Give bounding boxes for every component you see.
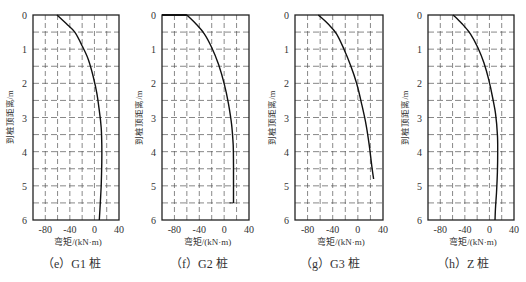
x-tick-label: -80 <box>168 224 181 235</box>
y-tick-label: 5 <box>284 181 289 192</box>
chart-panel-g2: 0123456-80-40040弯矩/(kN·m)到桩顶距离/m <box>134 10 254 247</box>
x-tick-label: 40 <box>244 224 254 235</box>
y-tick-label: 3 <box>22 113 27 124</box>
caption-g1: （e）G1 桩 <box>42 254 101 272</box>
y-axis-label: 到桩顶距离/m <box>400 90 410 144</box>
x-axis-label: 弯矩/(kN·m) <box>317 236 365 247</box>
x-tick-label: 0 <box>92 224 97 235</box>
y-tick-label: 6 <box>22 215 27 226</box>
y-tick-label: 1 <box>284 44 289 55</box>
moment-curve-g3 <box>318 15 373 179</box>
chart-figure: 0123456-80-40040弯矩/(kN·m)到桩顶距离/m0123456-… <box>0 0 526 282</box>
caption-g2: （f）G2 桩 <box>170 254 228 272</box>
y-tick-label: 3 <box>151 113 156 124</box>
x-tick-label: -40 <box>193 224 206 235</box>
x-axis-label: 弯矩/(kN·m) <box>54 236 102 247</box>
chart-panel-g3: 0123456-80-40040弯矩/(kN·m)到桩顶距离/m <box>267 10 388 247</box>
chart-panel-g1: 0123456-80-40040弯矩/(kN·m)到桩顶距离/m <box>5 10 124 247</box>
x-tick-label: 40 <box>114 224 124 235</box>
y-tick-label: 4 <box>417 147 422 158</box>
y-tick-label: 3 <box>284 113 289 124</box>
y-tick-label: 2 <box>151 78 156 89</box>
y-tick-label: 0 <box>22 10 27 21</box>
x-tick-label: -40 <box>326 224 339 235</box>
x-tick-label: 0 <box>222 224 227 235</box>
y-axis-label: 到桩顶距离/m <box>5 90 15 144</box>
y-axis-label: 到桩顶距离/m <box>267 90 277 144</box>
x-tick-label: 40 <box>509 224 519 235</box>
y-tick-label: 6 <box>151 215 156 226</box>
y-tick-label: 6 <box>284 215 289 226</box>
x-tick-label: 40 <box>378 224 388 235</box>
x-tick-label: -80 <box>39 224 52 235</box>
y-tick-label: 4 <box>151 147 156 158</box>
y-tick-label: 2 <box>284 78 289 89</box>
y-tick-label: 2 <box>417 78 422 89</box>
x-tick-label: 0 <box>487 224 492 235</box>
x-tick-label: 0 <box>355 224 360 235</box>
y-tick-label: 5 <box>151 181 156 192</box>
y-tick-label: 1 <box>151 44 156 55</box>
caption-g3: （g）G3 桩 <box>300 254 360 272</box>
y-tick-label: 1 <box>22 44 27 55</box>
y-axis-label: 到桩顶距离/m <box>134 90 144 144</box>
y-tick-label: 4 <box>284 147 289 158</box>
y-tick-label: 6 <box>417 215 422 226</box>
y-tick-label: 1 <box>417 44 422 55</box>
y-tick-label: 0 <box>151 10 156 21</box>
y-tick-label: 5 <box>22 181 27 192</box>
y-tick-label: 0 <box>284 10 289 21</box>
x-tick-label: -80 <box>434 224 447 235</box>
y-tick-label: 2 <box>22 78 27 89</box>
moment-curve-g2 <box>187 15 234 203</box>
y-tick-label: 5 <box>417 181 422 192</box>
chart-panel-z: 0123456-80-40040弯矩/(kN·m)到桩顶距离/m <box>400 10 519 247</box>
x-axis-label: 弯矩/(kN·m) <box>184 236 232 247</box>
y-tick-label: 4 <box>22 147 27 158</box>
x-axis-label: 弯矩/(kN·m) <box>449 236 497 247</box>
caption-z: （h）Z 桩 <box>437 254 489 272</box>
y-tick-label: 0 <box>417 10 422 21</box>
y-tick-label: 3 <box>417 113 422 124</box>
x-tick-label: -40 <box>458 224 471 235</box>
x-tick-label: -40 <box>63 224 76 235</box>
x-tick-label: -80 <box>301 224 314 235</box>
